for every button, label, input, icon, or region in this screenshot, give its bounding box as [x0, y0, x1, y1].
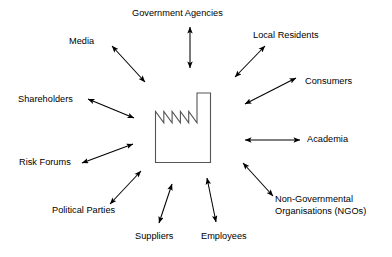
node-label-ngos: Non-Governmental Organisations (NGOs)	[275, 194, 366, 217]
node-label-shareholders: Shareholders	[18, 94, 73, 106]
node-label-media: Media	[69, 36, 94, 48]
connector-consumers	[245, 78, 296, 104]
connector-shareholders	[88, 99, 134, 118]
connector-risk-forums	[82, 144, 133, 163]
connector-political-parties	[110, 171, 141, 204]
node-label-local-residents: Local Residents	[253, 30, 319, 42]
node-label-employees: Employees	[201, 231, 247, 243]
factory-icon	[156, 93, 211, 163]
node-label-consumers: Consumers	[305, 76, 352, 88]
connector-employees	[207, 178, 216, 222]
diagram-canvas: Government Agencies Local Residents Cons…	[0, 0, 392, 257]
node-label-suppliers: Suppliers	[135, 231, 173, 243]
node-label-government-agencies: Government Agencies	[132, 8, 223, 20]
node-label-academia: Academia	[307, 134, 348, 146]
node-label-risk-forums: Risk Forums	[19, 157, 71, 169]
stakeholder-diagram	[0, 0, 392, 257]
connector-suppliers	[159, 184, 172, 223]
connector-local-residents	[235, 46, 265, 77]
connector-ngos	[243, 163, 273, 196]
connector-media	[112, 46, 145, 82]
node-label-political-parties: Political Parties	[52, 205, 115, 217]
